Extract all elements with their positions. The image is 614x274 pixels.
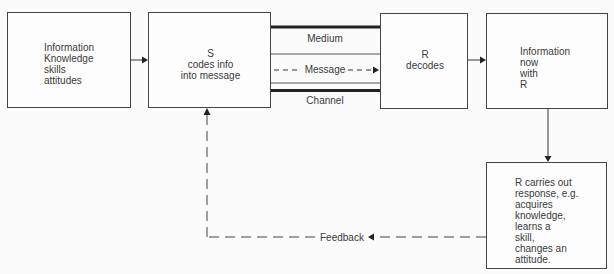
arrowhead-icon: [204, 108, 211, 115]
sender-label: S codes info into message: [149, 48, 272, 81]
medium-label: Medium: [270, 33, 380, 44]
receiver-box: R decodes: [380, 13, 468, 109]
sender-box: S codes info into message: [148, 12, 271, 108]
result-box: Information now with R: [486, 13, 608, 109]
channel-label: Channel: [270, 95, 380, 106]
arrowhead-icon: [368, 234, 374, 241]
feedback-label: Feedback: [320, 232, 364, 243]
response-label: R carries out response, e.g. acquires kn…: [515, 177, 578, 265]
receiver-label: R decodes: [381, 49, 469, 71]
response-box: R carries out response, e.g. acquires kn…: [486, 162, 607, 269]
message-label: Message: [270, 64, 380, 75]
source-box: Information Knowledge skills attitudes: [7, 12, 131, 108]
source-label: Information Knowledge skills attitudes: [44, 42, 94, 86]
result-label: Information now with R: [520, 46, 570, 90]
